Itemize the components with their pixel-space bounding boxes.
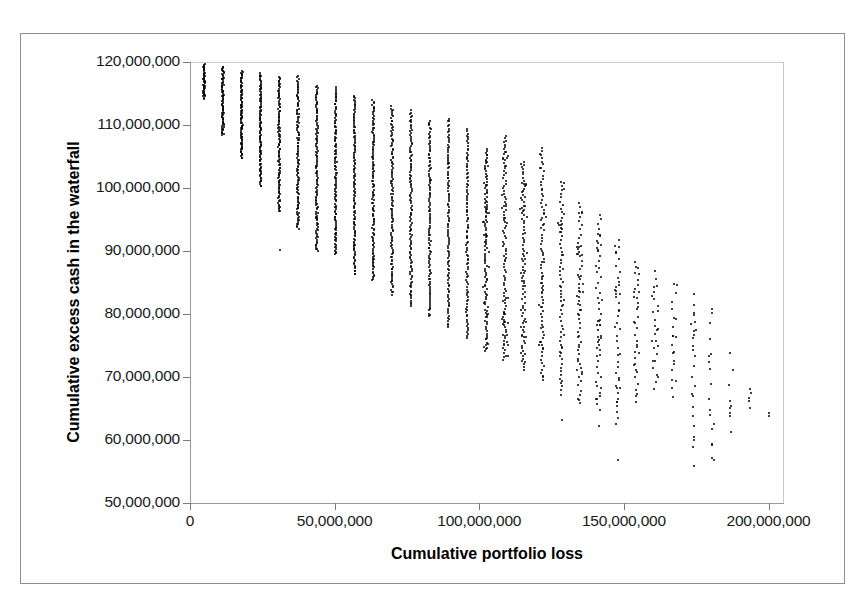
- scatter-point: [582, 291, 584, 293]
- scatter-point: [559, 274, 561, 276]
- scatter-point: [521, 298, 523, 300]
- scatter-point: [545, 204, 547, 206]
- scatter-point: [486, 330, 488, 332]
- scatter-point: [335, 240, 337, 242]
- scatter-point: [428, 315, 430, 317]
- scatter-point: [597, 297, 599, 299]
- scatter-point: [578, 220, 580, 222]
- scatter-point: [541, 278, 543, 280]
- scatter-point: [711, 428, 713, 430]
- scatter-point: [598, 228, 600, 230]
- scatter-point: [505, 183, 507, 185]
- scatter-point: [428, 255, 430, 257]
- scatter-point: [410, 116, 412, 118]
- scatter-point: [617, 366, 619, 368]
- scatter-point: [597, 249, 599, 251]
- scatter-point: [372, 215, 374, 217]
- scatter-point: [598, 302, 600, 304]
- scatter-point: [656, 285, 658, 287]
- scatter-point: [597, 329, 599, 331]
- scatter-point: [541, 316, 543, 318]
- scatter-point: [538, 304, 540, 306]
- scatter-point: [596, 355, 598, 357]
- scatter-point: [559, 266, 561, 268]
- scatter-point: [259, 160, 261, 162]
- scatter-point: [542, 163, 544, 165]
- scatter-point: [729, 352, 731, 354]
- scatter-point: [521, 191, 523, 193]
- scatter-point: [618, 302, 620, 304]
- scatter-point: [599, 255, 601, 257]
- scatter-point: [618, 258, 620, 260]
- scatter-point: [521, 347, 523, 349]
- scatter-point: [617, 277, 619, 279]
- scatter-point: [637, 302, 639, 304]
- scatter-point: [558, 224, 560, 226]
- scatter-point: [503, 263, 505, 265]
- scatter-point: [505, 250, 507, 252]
- scatter-point: [542, 275, 544, 277]
- scatter-point: [541, 296, 543, 298]
- scatter-point: [541, 287, 543, 289]
- scatter-point: [561, 313, 563, 315]
- scatter-point: [633, 291, 635, 293]
- scatter-point: [619, 293, 621, 295]
- scatter-point: [466, 128, 468, 130]
- scatter-point: [542, 254, 544, 256]
- scatter-point: [486, 154, 488, 156]
- scatter-point: [654, 270, 656, 272]
- scatter-point: [335, 234, 337, 236]
- scatter-point: [617, 459, 619, 461]
- y-axis-tick-label: 60,000,000: [48, 430, 180, 448]
- scatter-point: [523, 369, 525, 371]
- scatter-point: [505, 198, 507, 200]
- y-axis-tick-mark: [183, 377, 190, 378]
- scatter-point: [633, 296, 635, 298]
- scatter-point: [501, 207, 503, 209]
- scatter-point: [579, 268, 581, 270]
- scatter-point: [506, 334, 508, 336]
- scatter-point: [559, 340, 561, 342]
- scatter-point: [521, 277, 523, 279]
- scatter-point: [671, 301, 673, 303]
- scatter-point: [559, 243, 561, 245]
- scatter-point: [503, 292, 505, 294]
- scatter-point: [241, 157, 243, 159]
- scatter-point: [221, 134, 223, 136]
- scatter-point: [525, 321, 527, 323]
- scatter-point: [488, 212, 490, 214]
- scatter-point: [693, 425, 695, 427]
- scatter-point: [615, 296, 617, 298]
- scatter-point: [448, 269, 450, 271]
- scatter-point: [597, 360, 599, 362]
- scatter-point: [598, 308, 600, 310]
- scatter-point: [729, 415, 731, 417]
- scatter-point: [522, 266, 524, 268]
- scatter-point: [673, 283, 675, 285]
- scatter-point: [695, 329, 697, 331]
- scatter-point: [524, 291, 526, 293]
- scatter-point: [577, 303, 579, 305]
- scatter-point: [708, 398, 710, 400]
- scatter-point: [580, 367, 582, 369]
- scatter-point: [392, 187, 394, 189]
- scatter-point: [447, 187, 449, 189]
- scatter-point: [690, 323, 692, 325]
- scatter-point: [543, 365, 545, 367]
- scatter-point: [485, 281, 487, 283]
- scatter-point: [466, 173, 468, 175]
- scatter-point: [522, 307, 524, 309]
- scatter-point: [560, 220, 562, 222]
- scatter-point: [595, 381, 597, 383]
- scatter-point: [672, 326, 674, 328]
- scatter-point: [429, 189, 431, 191]
- scatter-point: [635, 401, 637, 403]
- scatter-point: [562, 281, 564, 283]
- scatter-point: [465, 311, 467, 313]
- scatter-point: [448, 220, 450, 222]
- scatter-point: [502, 347, 504, 349]
- scatter-point: [636, 327, 638, 329]
- scatter-point: [503, 162, 505, 164]
- scatter-point: [541, 157, 543, 159]
- scatter-point: [353, 207, 355, 209]
